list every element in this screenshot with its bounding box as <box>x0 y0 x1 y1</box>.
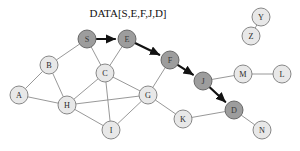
node-circle-c[interactable] <box>96 64 114 82</box>
graph-edge-c-g <box>113 77 140 91</box>
graph-node-s[interactable]: S <box>78 30 96 48</box>
graph-node-j[interactable]: J <box>194 72 212 90</box>
graph-edge-b-s <box>56 44 79 60</box>
node-circle-b[interactable] <box>40 56 58 74</box>
figure-title: DATA[S,E,F,J,D] <box>89 7 166 19</box>
graph-figure: ABCDEFGHIJKLMNSYZ DATA[S,E,F,J,D] <box>0 0 300 151</box>
graph-node-b[interactable]: B <box>40 56 58 74</box>
graph-edge-a-b <box>25 71 42 88</box>
graph-node-c[interactable]: C <box>96 64 114 82</box>
network-graph-canvas: ABCDEFGHIJKLMNSYZ DATA[S,E,F,J,D] <box>0 0 300 151</box>
graph-node-n[interactable]: N <box>253 121 271 139</box>
graph-node-z[interactable]: Z <box>242 27 260 45</box>
graph-edge-s-c <box>91 47 101 65</box>
node-circle-a[interactable] <box>10 86 28 104</box>
graph-edge-y-z <box>255 25 257 28</box>
graph-node-f[interactable]: F <box>161 51 179 69</box>
node-circle-n[interactable] <box>253 121 271 139</box>
path-edge-j-d <box>210 87 225 101</box>
graph-node-a[interactable]: A <box>10 86 28 104</box>
graph-edge-d-n <box>241 115 254 125</box>
graph-edge-g-i <box>118 101 142 124</box>
graph-node-y[interactable]: Y <box>252 8 270 26</box>
node-circle-z[interactable] <box>242 27 260 45</box>
graph-edge-c-h <box>74 79 98 99</box>
node-circle-d[interactable] <box>225 101 243 119</box>
graph-node-i[interactable]: I <box>102 121 120 139</box>
graph-node-m[interactable]: M <box>234 65 252 83</box>
node-circle-g[interactable] <box>139 86 157 104</box>
graph-edge-c-e <box>110 47 122 66</box>
highlighted-path-layer <box>97 39 226 102</box>
node-circle-f[interactable] <box>161 51 179 69</box>
graph-node-k[interactable]: K <box>174 110 192 128</box>
node-circle-m[interactable] <box>234 65 252 83</box>
graph-edge-g-k <box>155 100 175 114</box>
node-circle-j[interactable] <box>194 72 212 90</box>
graph-edge-b-h <box>53 73 64 97</box>
graph-node-g[interactable]: G <box>139 86 157 104</box>
node-circle-s[interactable] <box>78 30 96 48</box>
node-circle-k[interactable] <box>174 110 192 128</box>
node-circle-h[interactable] <box>58 96 76 114</box>
graph-node-h[interactable]: H <box>58 96 76 114</box>
graph-edge-j-m <box>212 76 234 80</box>
graph-node-e[interactable]: E <box>118 30 136 48</box>
graph-edge-g-f <box>153 68 165 88</box>
graph-edge-a-h <box>28 97 58 103</box>
node-circle-l[interactable] <box>273 65 291 83</box>
graph-node-l[interactable]: L <box>273 65 291 83</box>
path-edge-f-j <box>178 65 193 74</box>
graph-edge-k-d <box>192 112 225 118</box>
nodes-layer: ABCDEFGHIJKLMNSYZ <box>10 8 291 139</box>
path-edge-e-f <box>136 43 160 55</box>
node-circle-y[interactable] <box>252 8 270 26</box>
node-circle-i[interactable] <box>102 121 120 139</box>
graph-edge-h-i <box>75 109 103 125</box>
graph-node-d[interactable]: D <box>225 101 243 119</box>
node-circle-e[interactable] <box>118 30 136 48</box>
graph-edge-c-i <box>106 82 110 121</box>
